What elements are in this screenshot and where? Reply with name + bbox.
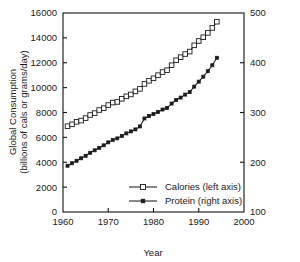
data-point-marker — [211, 64, 214, 67]
data-point-marker — [93, 149, 96, 152]
data-point-marker — [66, 164, 69, 167]
data-point-marker — [151, 76, 156, 81]
legend-label: Protein (right axis) — [165, 195, 242, 206]
x-tick-label: 2000 — [233, 216, 254, 227]
y-tick-label: 6000 — [36, 132, 57, 143]
y2-tick-label: 500 — [250, 7, 266, 18]
x-axis-title: Year — [143, 247, 162, 258]
data-point-marker — [179, 96, 182, 99]
data-point-marker — [165, 68, 170, 73]
y2-tick-label: 200 — [250, 157, 266, 168]
data-point-marker — [201, 35, 206, 40]
y-tick-label: 0 — [52, 206, 57, 217]
data-point-marker — [161, 108, 164, 111]
data-point-marker — [124, 94, 129, 99]
data-point-marker — [133, 89, 138, 94]
data-point-marker — [120, 97, 125, 102]
data-point-marker — [197, 80, 200, 83]
x-tick-label: 1970 — [98, 216, 119, 227]
data-point-marker — [120, 134, 123, 137]
data-point-marker — [183, 52, 188, 57]
y-axis-title-line1: Global Consumption — [7, 69, 18, 155]
data-point-marker — [143, 117, 146, 120]
data-point-marker — [111, 138, 114, 141]
legend-marker-open-square-icon — [141, 185, 146, 190]
data-point-marker — [196, 39, 201, 44]
data-point-marker — [70, 122, 75, 127]
data-point-marker — [80, 157, 83, 160]
y2-tick-label: 100 — [250, 206, 266, 217]
data-point-marker — [83, 116, 88, 121]
x-tick-label: 1990 — [188, 216, 209, 227]
y-tick-label: 14000 — [31, 32, 57, 43]
y-tick-label: 16000 — [31, 7, 57, 18]
data-point-marker — [116, 137, 119, 140]
y-tick-label: 8000 — [36, 107, 57, 118]
data-point-marker — [75, 159, 78, 162]
data-point-marker — [84, 154, 87, 157]
data-point-marker — [206, 31, 211, 36]
data-point-marker — [97, 108, 102, 113]
data-point-marker — [129, 92, 134, 97]
data-point-marker — [170, 102, 173, 105]
data-point-marker — [74, 120, 79, 125]
data-point-marker — [175, 99, 178, 102]
data-point-marker — [215, 19, 220, 24]
data-point-marker — [106, 103, 111, 108]
data-point-marker — [147, 114, 150, 117]
y-tick-label: 4000 — [36, 157, 57, 168]
data-point-marker — [138, 125, 141, 128]
data-point-marker — [169, 63, 174, 68]
y2-tick-label: 400 — [250, 57, 266, 68]
legend-marker-filled-cross-icon — [141, 199, 145, 203]
x-tick-label: 1980 — [143, 216, 164, 227]
data-point-marker — [187, 49, 192, 54]
data-point-marker — [88, 113, 93, 118]
data-point-marker — [92, 111, 97, 116]
data-point-marker — [110, 100, 115, 105]
data-point-marker — [102, 144, 105, 147]
data-point-marker — [142, 82, 147, 87]
data-point-marker — [166, 107, 169, 110]
y-axis-title-line2: (billions of cals or grams/day) — [18, 50, 29, 174]
data-point-marker — [188, 91, 191, 94]
data-point-marker — [98, 146, 101, 149]
chart-figure: 19601970198019902000 0200040006000800010… — [0, 0, 300, 262]
data-point-marker — [134, 128, 137, 131]
data-point-marker — [152, 112, 155, 115]
data-point-marker — [101, 106, 106, 111]
x-tick-label: 1960 — [52, 216, 73, 227]
data-point-marker — [184, 93, 187, 96]
data-point-marker — [147, 78, 152, 83]
data-point-marker — [79, 118, 84, 123]
data-point-marker — [192, 43, 197, 48]
legend-label: Calories (left axis) — [165, 181, 241, 192]
y-tick-label: 10000 — [31, 82, 57, 93]
y-tick-label: 2000 — [36, 182, 57, 193]
data-point-marker — [125, 132, 128, 135]
data-point-marker — [71, 162, 74, 165]
data-point-marker — [156, 73, 161, 78]
data-point-marker — [206, 70, 209, 73]
data-point-marker — [174, 58, 179, 63]
data-point-marker — [89, 151, 92, 154]
data-point-marker — [129, 130, 132, 133]
data-point-marker — [65, 124, 70, 129]
data-point-marker — [178, 55, 183, 60]
data-point-marker — [115, 100, 120, 105]
data-point-marker — [107, 141, 110, 144]
data-point-marker — [157, 111, 160, 114]
y-tick-label: 12000 — [31, 57, 57, 68]
data-point-marker — [160, 70, 165, 75]
data-point-marker — [210, 26, 215, 31]
data-point-marker — [202, 75, 205, 78]
data-point-marker — [215, 56, 218, 59]
data-point-marker — [193, 85, 196, 88]
data-point-marker — [138, 87, 143, 92]
y2-tick-label: 300 — [250, 107, 266, 118]
dual-axis-line-chart: 19601970198019902000 0200040006000800010… — [0, 0, 300, 262]
